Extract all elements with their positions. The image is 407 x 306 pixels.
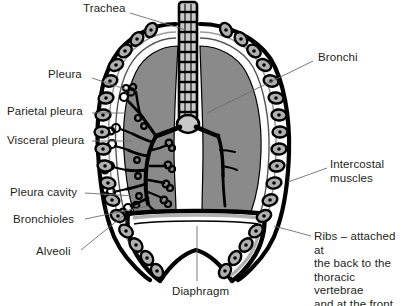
lung-right: [200, 46, 261, 212]
leader-line-ribs: [274, 226, 311, 236]
trachea: [179, 2, 197, 120]
label-bronchi: Bronchi: [318, 51, 358, 65]
label-visceral-pleura: Visceral pleura: [7, 134, 84, 148]
label-diaphragm: Diaphragm: [172, 285, 229, 299]
label-pleura-cavity: Pleura cavity: [10, 186, 77, 200]
anatomy-diagram-canvas: TracheaPleuraParietal pleuraVisceral ple…: [0, 0, 407, 306]
label-trachea: Trachea: [83, 2, 125, 16]
label-parietal-pleura: Parietal pleura: [7, 105, 83, 119]
label-alveoli: Alveoli: [36, 245, 71, 259]
label-pleura: Pleura: [48, 68, 82, 82]
label-intercostal-muscles: Intercostal muscles: [330, 158, 384, 185]
label-bronchioles: Bronchioles: [13, 213, 74, 227]
label-ribs: Ribs – attached at the back to the thora…: [314, 230, 407, 306]
leader-line-intercostal-muscles: [288, 168, 327, 182]
